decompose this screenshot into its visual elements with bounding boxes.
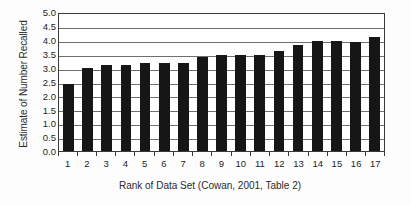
x-tick-mark (212, 152, 231, 156)
x-tick-label: 13 (289, 158, 308, 170)
x-tick-label: 12 (270, 158, 289, 170)
bar[interactable] (331, 41, 342, 151)
x-tick-mark (327, 152, 346, 156)
y-tick-label: 2.5 (34, 78, 56, 88)
bar[interactable] (293, 45, 304, 151)
x-tick-mark (173, 152, 192, 156)
x-tick-mark (96, 152, 115, 156)
bar-slot (365, 14, 384, 151)
bar-slot (308, 14, 327, 151)
x-tick-label: 6 (154, 158, 173, 170)
bar-slot (231, 14, 250, 151)
bar[interactable] (63, 84, 74, 151)
y-tick-label: 4.5 (34, 22, 56, 32)
x-tick-label: 14 (308, 158, 327, 170)
x-tick-label: 2 (77, 158, 96, 170)
x-tick-mark (58, 152, 77, 156)
bar-slot (269, 14, 288, 151)
bar-slot (78, 14, 97, 151)
bar-slot (327, 14, 346, 151)
bar-slot (97, 14, 116, 151)
x-tick-label: 5 (135, 158, 154, 170)
bar[interactable] (254, 55, 265, 151)
x-tick-mark (347, 152, 366, 156)
bar-slot (155, 14, 174, 151)
x-tick-label: 10 (231, 158, 250, 170)
x-tick-label: 7 (173, 158, 192, 170)
y-tick-label: 0.5 (34, 133, 56, 143)
x-tick-mark (154, 152, 173, 156)
bar-slot (59, 14, 78, 151)
bar[interactable] (121, 65, 132, 151)
x-tick-label: 11 (250, 158, 269, 170)
x-tick-label: 17 (366, 158, 385, 170)
bar[interactable] (140, 63, 151, 151)
y-tick-label: 3.5 (34, 50, 56, 60)
x-tick-mark (270, 152, 289, 156)
bar-chart-figure: Estimate of Number Recalled 0.00.51.01.5… (0, 0, 411, 205)
bar-slot (289, 14, 308, 151)
bar[interactable] (159, 63, 170, 151)
y-tick-label: 1.5 (34, 106, 56, 116)
x-axis-tick-labels: 1234567891011121314151617 (58, 158, 385, 170)
x-axis-title: Rank of Data Set (Cowan, 2001, Table 2) (30, 180, 390, 192)
x-tick-label: 3 (96, 158, 115, 170)
bar-slot (193, 14, 212, 151)
bar-slot (250, 14, 269, 151)
bar[interactable] (82, 68, 93, 151)
y-tick-label: 5.0 (34, 8, 56, 18)
plot-area (58, 13, 385, 152)
x-tick-label: 16 (347, 158, 366, 170)
x-tick-label: 15 (327, 158, 346, 170)
y-tick-label: 4.0 (34, 36, 56, 46)
x-tick-label: 9 (212, 158, 231, 170)
x-tick-label: 8 (193, 158, 212, 170)
y-axis-tick-labels: 0.00.51.01.52.02.53.03.54.04.55.0 (34, 8, 56, 154)
x-tick-label: 4 (116, 158, 135, 170)
x-tick-mark (231, 152, 250, 156)
x-tick-mark (77, 152, 96, 156)
bar[interactable] (350, 42, 361, 151)
bar[interactable] (274, 51, 285, 151)
bar[interactable] (369, 37, 380, 151)
x-tick-mark (308, 152, 327, 156)
y-tick-label: 3.0 (34, 64, 56, 74)
x-tick-mark (116, 152, 135, 156)
bar[interactable] (101, 65, 112, 151)
x-tick-label: 1 (58, 158, 77, 170)
x-tick-mark (250, 152, 269, 156)
y-tick-label: 0.0 (34, 147, 56, 157)
x-tick-mark (135, 152, 154, 156)
x-axis-tick-marks (58, 152, 385, 156)
bar-slot (346, 14, 365, 151)
bar-slot (174, 14, 193, 151)
x-tick-mark (193, 152, 212, 156)
bar-slot (136, 14, 155, 151)
y-axis-title: Estimate of Number Recalled (16, 8, 32, 160)
bar[interactable] (312, 41, 323, 151)
bar[interactable] (197, 57, 208, 151)
y-tick-label: 1.0 (34, 119, 56, 129)
bar-series (59, 14, 384, 151)
y-tick-label: 2.0 (34, 92, 56, 102)
x-tick-mark (366, 152, 385, 156)
bar-slot (212, 14, 231, 151)
bar-slot (116, 14, 135, 151)
bar[interactable] (178, 63, 189, 151)
x-tick-mark (289, 152, 308, 156)
bar[interactable] (235, 55, 246, 151)
bar[interactable] (216, 55, 227, 151)
